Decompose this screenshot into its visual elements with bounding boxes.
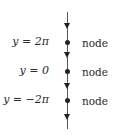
down-arrow-icon <box>64 114 70 120</box>
down-arrow-icon <box>64 23 70 29</box>
down-arrow-icon <box>64 83 70 89</box>
classification-label: node <box>82 66 108 78</box>
equilibrium-label: y = 2π <box>12 36 49 48</box>
equilibrium-dot <box>65 40 70 45</box>
equilibrium-label: y = −2π <box>3 94 49 106</box>
classification-label: node <box>82 37 108 49</box>
down-arrow-icon <box>64 52 70 58</box>
equilibrium-dot <box>65 98 70 103</box>
equilibrium-dot <box>65 69 70 74</box>
equilibrium-label: y = 0 <box>20 65 49 77</box>
classification-label: node <box>82 95 108 107</box>
